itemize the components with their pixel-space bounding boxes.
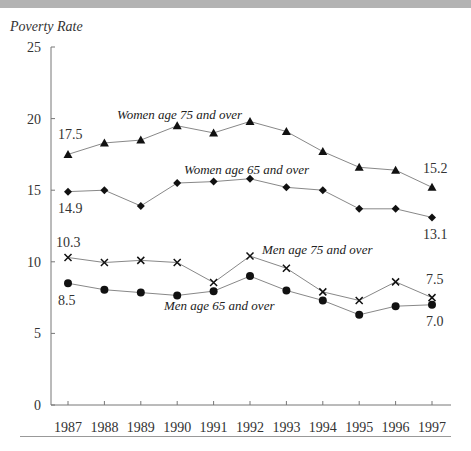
value-men75-start: 10.3 [56,235,81,250]
label-men-65: Men age 65 and over [163,298,275,313]
y-tick-label: 10 [27,255,41,270]
triangle-marker-icon [136,136,145,144]
x-tick-label: 1996 [382,420,410,435]
cross-marker-icon [356,297,363,304]
value-men75-end: 7.5 [426,272,444,287]
diamond-marker-icon [173,179,181,187]
bottom-rule [20,436,451,437]
value-women75-start: 17.5 [58,127,83,142]
triangle-marker-icon [318,147,327,155]
diamond-marker-icon [64,188,72,196]
chart-labels: Women age 75 and over Women age 65 and o… [56,107,448,329]
diamond-marker-icon [355,205,363,213]
x-tick-label: 1997 [418,420,446,435]
y-tick-label: 5 [34,326,41,341]
x-tick-label: 1994 [309,420,337,435]
circle-marker-icon [428,301,436,309]
triangle-marker-icon [428,183,437,191]
label-women-65: Women age 65 and over [184,162,310,177]
x-tick-label: 1991 [200,420,228,435]
cross-marker-icon [319,288,326,295]
series-line [68,179,432,218]
x-tick-label: 1995 [345,420,373,435]
circle-marker-icon [246,272,254,280]
triangle-marker-icon [355,163,364,171]
diamond-marker-icon [137,202,145,210]
diamond-marker-icon [210,178,218,186]
cross-marker-icon [247,253,254,260]
cross-marker-icon [283,265,290,272]
x-tick-label: 1989 [127,420,155,435]
label-women-75: Women age 75 and over [117,107,243,122]
circle-marker-icon [282,286,290,294]
y-tick-label: 20 [27,112,41,127]
cross-marker-icon [210,279,217,286]
diamond-marker-icon [282,183,290,191]
diamond-marker-icon [392,205,400,213]
value-women65-end: 13.1 [423,227,448,242]
circle-marker-icon [100,286,108,294]
value-women75-end: 15.2 [423,161,448,176]
x-tick-label: 1992 [236,420,264,435]
cross-marker-icon [429,294,436,301]
circle-marker-icon [355,311,363,319]
triangle-marker-icon [173,121,182,129]
label-men-75: Men age 75 and over [261,242,373,257]
circle-marker-icon [319,296,327,304]
value-men65-start: 8.5 [58,293,76,308]
y-tick-label: 25 [27,40,41,55]
y-tick-label: 15 [27,183,41,198]
diamond-marker-icon [428,213,436,221]
y-tick-label: 0 [34,398,41,413]
x-tick-label: 1987 [54,420,82,435]
x-tick-label: 1990 [163,420,191,435]
diamond-marker-icon [319,186,327,194]
x-tick-label: 1993 [272,420,300,435]
line-chart: 0510152025198719881989199019911992199319… [0,0,471,451]
circle-marker-icon [210,287,218,295]
circle-marker-icon [392,302,400,310]
value-men65-end: 7.0 [426,314,444,329]
x-tick-label: 1988 [90,420,118,435]
axes: 0510152025198719881989199019911992199319… [27,40,451,435]
circle-marker-icon [137,289,145,297]
diamond-marker-icon [100,186,108,194]
circle-marker-icon [64,279,72,287]
series-lines [68,121,432,314]
value-women65-start: 14.9 [58,201,83,216]
series-markers [64,117,437,319]
triangle-marker-icon [246,117,255,125]
cross-marker-icon [392,278,399,285]
